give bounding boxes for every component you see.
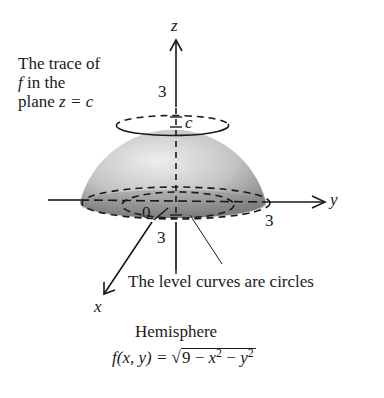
x-tick-label: 3 bbox=[157, 228, 166, 247]
surface-caption: Hemisphere bbox=[135, 322, 217, 341]
trace-line2-rest: in the bbox=[23, 73, 66, 92]
trace-line3-eq: z = c bbox=[59, 92, 93, 111]
formula-const: 9 − bbox=[182, 348, 209, 367]
trace-line3-prefix: plane bbox=[18, 92, 59, 111]
trace-annotation-line3: plane z = c bbox=[18, 92, 100, 111]
z-axis-label: z bbox=[171, 16, 178, 35]
level-curves-annotation: The level curves are circles bbox=[128, 272, 314, 291]
origin-label: 0 bbox=[142, 203, 151, 222]
formula-lhs: f(x, y) = bbox=[112, 348, 172, 367]
formula-x: x bbox=[209, 348, 217, 367]
formula-radicand: 9 − x2 − y2 bbox=[181, 348, 256, 366]
y-tick-label: 3 bbox=[265, 211, 274, 230]
trace-annotation-line2: f in the bbox=[18, 73, 100, 92]
surface-formula: f(x, y) = √9 − x2 − y2 bbox=[112, 348, 256, 368]
hemisphere-surface bbox=[80, 130, 266, 218]
formula-y: y bbox=[240, 348, 248, 367]
annotation-leaders bbox=[176, 215, 222, 270]
sqrt-sign: √ bbox=[172, 348, 181, 367]
formula-y-exp: 2 bbox=[248, 346, 254, 360]
trace-annotation: The trace of f in the plane z = c bbox=[18, 54, 100, 111]
x-axis-label: x bbox=[94, 297, 102, 316]
formula-mid: − bbox=[222, 348, 240, 367]
c-label: c bbox=[185, 113, 193, 132]
trace-annotation-line1: The trace of bbox=[18, 54, 100, 73]
y-axis-label: y bbox=[330, 190, 338, 209]
z-tick-label: 3 bbox=[158, 82, 167, 101]
